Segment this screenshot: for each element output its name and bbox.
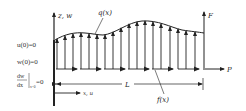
q-label-leader: [95, 18, 103, 34]
bc-slope-denominator: dx: [17, 82, 23, 88]
bc-slope: dw dx x=0 =0: [17, 73, 44, 89]
f-label-leader: [155, 70, 164, 94]
q-label: q(x): [98, 9, 112, 17]
boundary-conditions: u(0)=0 w(0)=0 dw dx x=0 =0: [17, 41, 44, 89]
distributed-load-curve: [55, 21, 204, 40]
end-force-label: F: [207, 12, 214, 20]
f-label: f(x): [156, 96, 169, 104]
x-axis-label: x, u: [83, 90, 94, 96]
distributed-load-arrows: [57, 21, 195, 69]
bc-u: u(0)=0: [17, 41, 37, 49]
bc-w: w(0)=0: [17, 58, 38, 66]
length-arrow-left-head: [56, 82, 61, 86]
bc-slope-rhs: =0: [36, 78, 44, 86]
z-axis-label: z, w: [57, 12, 72, 20]
bc-slope-eval-point: x=0: [30, 85, 36, 89]
length-label: L: [124, 81, 130, 89]
axial-force-label: P: [226, 66, 232, 74]
cantilever-beam-diagram: z, w q(x) F f(x) P: [0, 0, 246, 111]
bc-slope-numerator: dw: [17, 73, 25, 79]
